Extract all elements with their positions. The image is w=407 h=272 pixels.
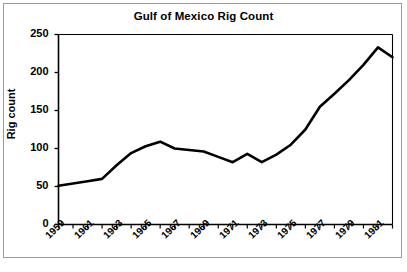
axis-lines: [59, 35, 393, 225]
chart-figure: Gulf of Mexico Rig Count Rig count 05010…: [0, 0, 407, 272]
y-tick-label: 200: [15, 65, 49, 77]
y-tick-label: 150: [15, 103, 49, 115]
tick-marks: [55, 35, 393, 229]
y-tick-label: 100: [15, 141, 49, 153]
rig-count-line: [59, 47, 393, 185]
y-tick-label: 50: [15, 179, 49, 191]
y-tick-label: 250: [15, 27, 49, 39]
y-tick-label: 0: [15, 217, 49, 229]
